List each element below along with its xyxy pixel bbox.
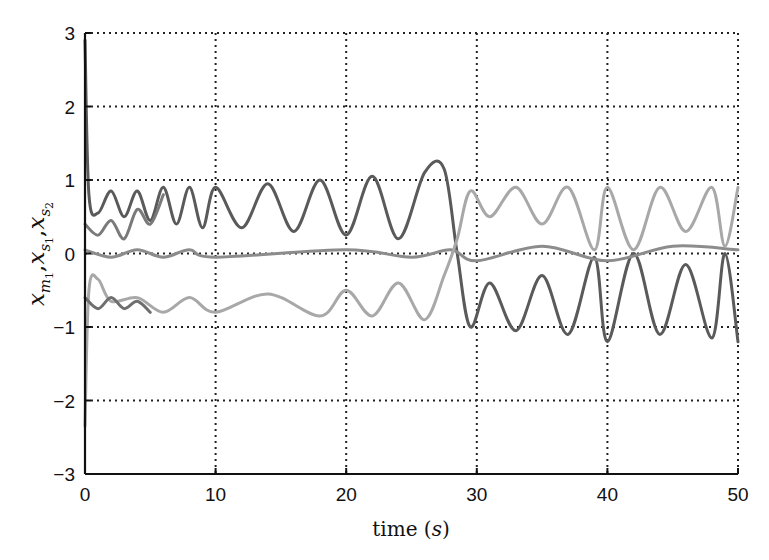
y-tick-label: −3 bbox=[53, 464, 75, 485]
y-tick-label: −1 bbox=[53, 317, 75, 338]
y-tick-label: 1 bbox=[64, 170, 75, 191]
chart: −3−2−10123 01020304050 time (s) xm1,xs1,… bbox=[0, 0, 769, 560]
series-line bbox=[85, 40, 738, 341]
x-tick-label: 30 bbox=[466, 484, 487, 505]
y-tick-label: 2 bbox=[64, 97, 75, 118]
x-tick-label: 20 bbox=[336, 484, 357, 505]
series-line bbox=[85, 187, 738, 426]
x-axis-title: time (s) bbox=[372, 517, 449, 541]
svg-text:xm1,xs1,xs2: xm1,xs1,xs2 bbox=[23, 202, 56, 306]
x-tick-label: 50 bbox=[727, 484, 748, 505]
x-tick-label: 0 bbox=[80, 484, 91, 505]
data-series bbox=[85, 40, 738, 426]
y-axis-title: xm1,xs1,xs2 bbox=[23, 202, 56, 306]
y-tick-label: 0 bbox=[64, 244, 75, 265]
x-tick-label: 40 bbox=[597, 484, 618, 505]
y-tick-label: 3 bbox=[64, 23, 75, 44]
x-tick-label: 10 bbox=[205, 484, 226, 505]
y-tick-label: −2 bbox=[53, 391, 75, 412]
